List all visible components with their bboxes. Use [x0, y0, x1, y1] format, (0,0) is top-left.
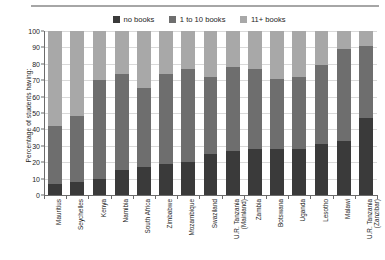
x-tick-label: Uganda — [299, 199, 306, 221]
bar-segment — [315, 65, 329, 144]
bar-segment — [248, 69, 262, 149]
stacked-bar[interactable] — [248, 31, 262, 195]
y-tick-label: 40 — [18, 126, 40, 133]
bar-slot — [44, 31, 66, 195]
header-rule — [31, 5, 379, 7]
stacked-bar[interactable] — [315, 31, 329, 195]
x-label-slot: Mozambique — [177, 199, 199, 259]
legend-label-no-books: no books — [124, 15, 155, 24]
bar-segment — [270, 31, 284, 79]
chart-legend: no books 1 to 10 books 11+ books — [113, 15, 286, 24]
bar-segment — [359, 118, 373, 195]
bar-segment — [292, 149, 306, 195]
bar-segment — [93, 31, 107, 80]
x-tick-label: Malawi — [344, 199, 351, 219]
x-tick-label: Mozambique — [188, 199, 195, 236]
bar-slot — [222, 31, 244, 195]
bar-segment — [226, 67, 240, 151]
bar-slot — [177, 31, 199, 195]
bar-slot — [111, 31, 133, 195]
x-tick-label: South Africa — [144, 199, 151, 233]
bar-segment — [226, 151, 240, 195]
bar-slot — [266, 31, 288, 195]
stacked-bar[interactable] — [226, 31, 240, 195]
bar-segment — [270, 149, 284, 195]
chart-root: no books 1 to 10 books 11+ books Percent… — [0, 0, 385, 260]
bar-slot — [155, 31, 177, 195]
x-label-slot: Swaziland — [199, 199, 221, 259]
stacked-bar[interactable] — [70, 31, 84, 195]
stacked-bar[interactable] — [359, 31, 373, 195]
legend-item-11-plus-books: 11+ books — [240, 15, 285, 24]
x-label-slot: Zimbabwe — [155, 199, 177, 259]
stacked-bar[interactable] — [115, 31, 129, 195]
y-tick-label: 100 — [18, 28, 40, 35]
bar-segment — [359, 46, 373, 118]
bar-segment — [115, 31, 129, 74]
bar-slot — [199, 31, 221, 195]
bar-slot — [88, 31, 110, 195]
y-tick-label: 60 — [18, 93, 40, 100]
y-tick-label: 30 — [18, 142, 40, 149]
x-tick-label: Zimbabwe — [166, 199, 173, 228]
x-label-slot: U.R. Tanzania(Mainland) — [222, 199, 244, 259]
bar-segment — [70, 182, 84, 195]
bar-segment — [181, 162, 195, 195]
bar-segment — [292, 77, 306, 149]
plot-area — [44, 31, 377, 195]
bar-segment — [204, 77, 218, 154]
bar-slot — [66, 31, 88, 195]
bar-segment — [248, 31, 262, 69]
x-tick-label: U.R. Tanzania(Zanzibar) — [366, 199, 380, 239]
bar-segment — [181, 31, 195, 69]
x-label-slot: Seychelles — [66, 199, 88, 259]
x-label-slot: Malawi — [333, 199, 355, 259]
x-label-slot: Kenya — [88, 199, 110, 259]
stacked-bar[interactable] — [181, 31, 195, 195]
bar-segment — [70, 31, 84, 116]
bar-segment — [137, 88, 151, 167]
y-tick-label: 80 — [18, 60, 40, 67]
x-axis-labels: MauritiusSeychellesKenyaNamibiaSouth Afr… — [44, 199, 377, 259]
bar-segment — [204, 31, 218, 77]
bar-segment — [137, 167, 151, 195]
stacked-bar[interactable] — [292, 31, 306, 195]
x-tick-label: Swaziland — [211, 199, 218, 228]
x-tick-label: Namibia — [122, 199, 129, 222]
x-tick-label: Kenya — [100, 199, 107, 217]
bar-segment — [137, 31, 151, 88]
bar-segment — [48, 31, 62, 126]
bar-segment — [93, 80, 107, 178]
y-tick-label: 0 — [18, 192, 40, 199]
bar-segment — [337, 49, 351, 141]
stacked-bar[interactable] — [204, 31, 218, 195]
bar-slot — [133, 31, 155, 195]
bar-segment — [48, 126, 62, 183]
y-tick-label: 20 — [18, 159, 40, 166]
stacked-bar[interactable] — [93, 31, 107, 195]
bar-slot — [355, 31, 377, 195]
bar-slot — [244, 31, 266, 195]
bar-segment — [315, 144, 329, 195]
bar-slot — [310, 31, 332, 195]
bar-segment — [159, 164, 173, 195]
y-axis-line — [44, 31, 45, 196]
stacked-bar[interactable] — [48, 31, 62, 195]
y-tick-label: 10 — [18, 175, 40, 182]
bar-segment — [70, 116, 84, 182]
y-tick-label: 50 — [18, 110, 40, 117]
y-tick-label: 70 — [18, 77, 40, 84]
legend-label-1-to-10-books: 1 to 10 books — [180, 15, 226, 24]
bar-slot — [288, 31, 310, 195]
x-label-slot: U.R. Tanzania(Zanzibar) — [355, 199, 377, 259]
stacked-bar[interactable] — [337, 31, 351, 195]
bar-segment — [226, 31, 240, 67]
stacked-bar[interactable] — [159, 31, 173, 195]
x-label-slot: Botswana — [266, 199, 288, 259]
stacked-bar[interactable] — [270, 31, 284, 195]
stacked-bar[interactable] — [137, 31, 151, 195]
bar-segment — [115, 74, 129, 171]
x-label-slot: Namibia — [111, 199, 133, 259]
x-label-slot: Uganda — [288, 199, 310, 259]
bar-segment — [337, 141, 351, 195]
